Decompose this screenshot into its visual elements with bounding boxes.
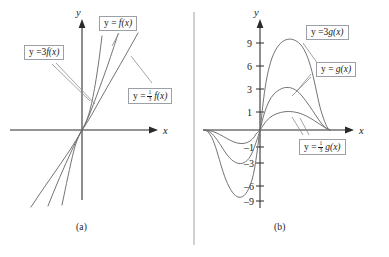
y-tick-6: 6 [247, 61, 252, 72]
label-third-gx-text: y = [304, 142, 316, 153]
y-tick-1: 1 [247, 107, 252, 118]
panel-b-leader-g [292, 74, 311, 96]
y-tick-neg-6: –6 [243, 181, 254, 192]
panel-a-leader-third-f [131, 56, 152, 83]
y-tick-9: 9 [247, 38, 252, 49]
y-axis-arrowhead-b [257, 19, 264, 28]
y-axis-arrowhead-a [79, 19, 86, 28]
label-3fx-function: f(x) [46, 47, 59, 57]
panel-a-leader-3f [52, 63, 95, 104]
panel-a-leader-f [112, 33, 119, 46]
panel-a-caption: (a) [76, 222, 87, 232]
y-tick-3: 3 [247, 84, 252, 95]
x-axis-arrowhead-b [345, 127, 354, 134]
panel-b-y-axis-label: y [253, 7, 259, 18]
panel-b-leader-third-g [292, 117, 309, 135]
label-third-fx-function: f(x) [154, 91, 167, 102]
label-fx-text: y = [104, 18, 116, 28]
fraction-denominator: 3 [318, 147, 323, 154]
fraction-denominator: 3 [147, 96, 152, 103]
label-fx-function: f(x) [119, 18, 132, 28]
panel-b-caption: (b) [274, 222, 286, 232]
label-box-third-fx[interactable]: y = 1 3 f(x) [128, 88, 172, 104]
label-3gx-function: g(x) [328, 27, 343, 37]
label-box-3fx[interactable]: y =3f(x) [24, 45, 64, 60]
label-3fx-text: y = [29, 47, 41, 57]
panel-a-plot: x y [10, 7, 168, 207]
label-third-gx-function: g(x) [325, 142, 340, 153]
label-box-gx[interactable]: y = g(x) [316, 62, 356, 77]
y-tick-neg-9: –9 [243, 196, 254, 207]
label-box-3gx[interactable]: y =3g(x) [306, 25, 349, 40]
label-gx-function: g(x) [336, 64, 351, 74]
panel-a-y-axis [79, 19, 86, 200]
label-box-fx[interactable]: y = f(x) [99, 16, 137, 31]
panel-b-x-axis [203, 127, 354, 134]
label-third-fx-fraction: 1 3 [147, 90, 152, 102]
label-gx-text: y = [321, 64, 333, 74]
label-box-third-gx[interactable]: y = 1 3 g(x) [299, 139, 346, 155]
figure-container: x y [0, 0, 389, 257]
panel-a-x-axis-label: x [162, 125, 168, 136]
panel-a-y-axis-label: y [75, 7, 81, 18]
panel-b-x-axis-label: x [358, 125, 364, 136]
x-axis-arrowhead-a [149, 127, 158, 134]
label-third-fx-text: y = [133, 91, 145, 102]
panel-b-y-tick-labels: 9 6 3 1 –1 –3 –6 –9 [243, 38, 254, 207]
panel-b-leader-3g [303, 43, 318, 64]
label-3gx-text: y = [311, 27, 323, 37]
label-third-gx-fraction: 1 3 [318, 141, 323, 153]
